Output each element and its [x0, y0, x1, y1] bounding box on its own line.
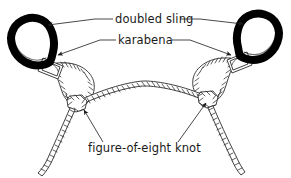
label-karabena: karabena: [118, 33, 173, 47]
label-doubled-sling: doubled sling: [115, 12, 193, 26]
label-figure-of-eight-knot: figure-of-eight knot: [88, 141, 201, 155]
knot-diagram: doubled sling karabena figure-of-eight k…: [0, 0, 291, 178]
